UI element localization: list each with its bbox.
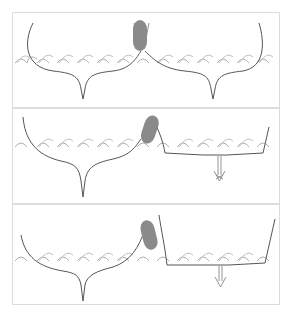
left-hull-icon (23, 117, 141, 197)
left-hull-icon (21, 229, 145, 301)
fender-icon (133, 20, 147, 51)
panel-3-drawing (13, 205, 281, 306)
fender-icon (139, 219, 160, 251)
broken-right-hull-icon (159, 215, 275, 265)
right-hull-icon (145, 23, 262, 99)
left-hull-icon (28, 23, 141, 99)
waves (15, 143, 269, 147)
sink-arrow-icon (215, 266, 226, 287)
panel-3 (12, 204, 280, 305)
panel-1 (12, 12, 280, 108)
broken-right-hull-icon (153, 119, 269, 155)
waves (15, 57, 269, 63)
waves (15, 257, 269, 261)
panel-2 (12, 108, 280, 204)
sink-arrow-icon (214, 156, 225, 181)
panel-1-drawing (13, 13, 281, 109)
panel-2-drawing (13, 109, 281, 205)
